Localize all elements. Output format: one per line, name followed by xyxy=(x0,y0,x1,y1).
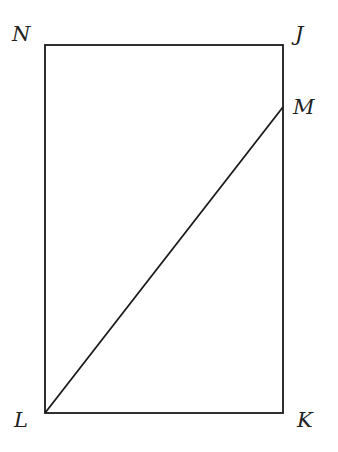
label-L: L xyxy=(13,408,28,432)
geometry-diagram: N J M L K xyxy=(0,0,338,452)
label-N: N xyxy=(11,22,31,46)
rectangle-NJKL xyxy=(45,45,283,413)
label-M: M xyxy=(292,95,315,119)
label-K: K xyxy=(296,408,314,432)
segment-LM xyxy=(45,107,283,413)
label-J: J xyxy=(291,22,305,46)
